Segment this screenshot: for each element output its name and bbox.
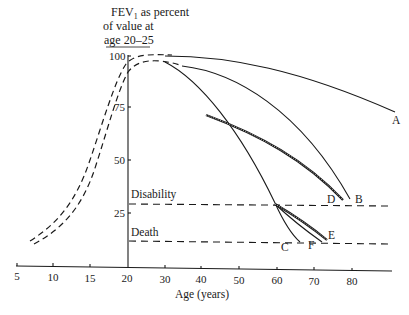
x-tick-5: 5 xyxy=(14,270,20,282)
curve-c xyxy=(165,62,300,242)
curve-b xyxy=(182,66,350,199)
x-tick-50: 50 xyxy=(234,274,246,286)
disability-line xyxy=(129,204,390,206)
death-label: Death xyxy=(131,226,159,238)
curve-a xyxy=(165,56,395,112)
axes xyxy=(16,55,392,271)
x-tick-70: 70 xyxy=(309,275,321,287)
y-tick-50: 50 xyxy=(114,154,126,166)
curve-f xyxy=(275,204,322,242)
y-tick-labels: 100 75 50 25 xyxy=(109,50,126,219)
fev1-age-chart: FEV1 as percent of value at age 20–25 10… xyxy=(0,0,409,315)
label-f: F xyxy=(308,239,314,251)
label-b: B xyxy=(355,193,363,205)
hatched-curves xyxy=(206,115,343,240)
y-label-line2: of value at xyxy=(103,19,154,33)
label-d: D xyxy=(327,193,335,205)
x-axis-line xyxy=(16,266,392,271)
y-tick-75: 75 xyxy=(114,101,126,113)
disability-label: Disability xyxy=(131,188,177,201)
y-axis-label: FEV1 as percent of value at age 20–25 xyxy=(103,5,190,47)
growth-lower-curve xyxy=(34,61,182,244)
curve-e xyxy=(275,204,327,240)
x-tick-60: 60 xyxy=(272,274,284,286)
y-tick-25: 25 xyxy=(114,207,126,219)
death-line xyxy=(129,241,390,244)
label-e: E xyxy=(328,229,335,241)
x-tick-labels: 5 10 15 20 30 40 50 60 70 80 Age (years) xyxy=(14,270,358,301)
x-tick-80: 80 xyxy=(347,275,359,287)
x-tick-30: 30 xyxy=(160,273,172,285)
x-tick-15: 15 xyxy=(85,272,97,284)
growth-curves xyxy=(30,55,182,244)
label-a: A xyxy=(392,114,401,126)
label-c: C xyxy=(281,241,289,253)
x-axis-label: Age (years) xyxy=(175,288,229,301)
x-tick-40: 40 xyxy=(196,273,208,285)
threshold-lines xyxy=(129,204,390,244)
y-tick-100: 100 xyxy=(109,50,126,62)
y-label-line3: age 20–25 xyxy=(104,33,154,47)
x-tick-10: 10 xyxy=(48,271,60,283)
x-tick-20: 20 xyxy=(122,272,134,284)
